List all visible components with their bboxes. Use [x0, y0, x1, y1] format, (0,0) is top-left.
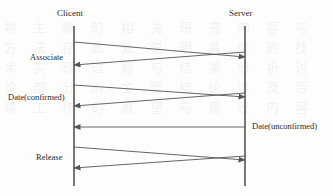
- message-arrow-associate-response: [74, 52, 245, 65]
- sequence-diagram-figure: 地 主 题 的 相 关 研 究 内 容 与 方 法 在 此 处 说 明 具 体 …: [0, 0, 333, 196]
- message-arrow-date-confirmed-response: [74, 93, 245, 106]
- participant-label-client: Clicent: [57, 8, 83, 18]
- message-arrow-release-response: [74, 156, 245, 168]
- message-label-date-unconfirmed: Date(unconfirmed): [252, 121, 317, 131]
- message-label-associate: Associate: [30, 52, 63, 62]
- message-label-release: Release: [36, 152, 62, 162]
- participant-label-server: Server: [229, 8, 253, 18]
- message-label-date-confirmed: Date(confirmed): [8, 92, 65, 102]
- message-arrow-associate-request: [74, 42, 245, 57]
